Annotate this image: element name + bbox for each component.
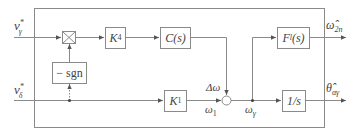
theta-hat-sub: αγ bbox=[332, 88, 339, 97]
input-v-gamma-star: v*γ bbox=[14, 19, 22, 32]
sgn-label: − sgn bbox=[56, 66, 82, 81]
input-v-delta-star: v*δ bbox=[14, 83, 23, 96]
filter-fl-block: Fl(s) bbox=[277, 27, 310, 49]
k1-symbol: K bbox=[169, 94, 177, 109]
v-delta-sub: δ bbox=[19, 91, 23, 100]
omega1-label: ω1 bbox=[205, 104, 217, 115]
cs-label: C(s) bbox=[165, 31, 186, 46]
omega1-sub: 1 bbox=[213, 109, 217, 118]
branch-point-vdelta bbox=[68, 99, 71, 102]
summing-junction bbox=[222, 96, 231, 105]
omega-gamma-sub: γ bbox=[253, 109, 256, 118]
omega-hat-sub: 2n bbox=[334, 25, 342, 34]
integrator-block: 1/s bbox=[282, 90, 306, 112]
integrator-label: 1/s bbox=[287, 94, 301, 109]
fl-arg: (s) bbox=[292, 31, 305, 46]
gain-k4-block: K4 bbox=[105, 27, 126, 49]
delta-omega-text: Δω bbox=[206, 81, 220, 93]
fl-symbol: F bbox=[282, 31, 289, 46]
v-gamma-sub: γ bbox=[19, 27, 22, 36]
output-omega-hat-2n: ω̂2n bbox=[326, 19, 342, 31]
controller-cs-block: C(s) bbox=[160, 27, 191, 49]
block-diagram: K4 C(s) − sgn K1 Fl(s) 1/s v*γ v*δ Δω ω1… bbox=[0, 0, 355, 134]
neg-sgn-block: − sgn bbox=[52, 62, 87, 84]
output-theta-hat-alpha-gamma: θ̂αγ bbox=[326, 82, 339, 94]
omega-gamma-label: ωγ bbox=[245, 104, 256, 115]
omega1-symbol: ω bbox=[205, 103, 213, 115]
branch-point-omega-gamma bbox=[251, 99, 254, 102]
delta-omega-label: Δω bbox=[206, 82, 220, 93]
k4-symbol: K bbox=[109, 31, 117, 46]
multiplier-block bbox=[63, 32, 76, 44]
v-delta-sup: * bbox=[20, 82, 24, 91]
gain-k1-block: K1 bbox=[164, 90, 187, 112]
v-gamma-sup: * bbox=[20, 18, 24, 27]
omega-gamma-symbol: ω bbox=[245, 103, 253, 115]
